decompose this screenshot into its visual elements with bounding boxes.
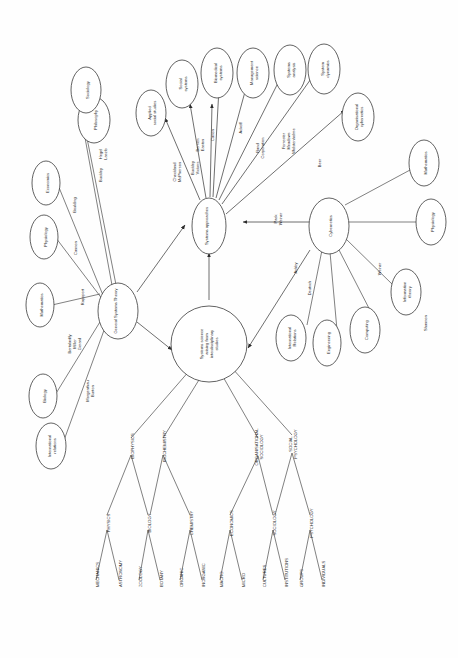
label-economics: Economics [45,173,50,193]
edgelabel-cannon: Cannon [73,241,78,255]
edgelabel-ashby: Ashby [293,262,298,273]
tree-leaf-cultures: CULTURES [262,565,267,587]
tree-leaf-individuals: INDIVIDUALS [321,560,326,587]
label-cybernetics: Cybernetics [328,215,333,237]
edgelabel-bertalanffy-miller-gerard: Bertalanffy Miller Gerard [67,334,82,353]
svg-text:Wolstenholme: Wolstenholme [291,128,296,154]
tree-leaf-groups: GROUPS [299,569,304,587]
svg-text:Mathematics: Mathematics [423,151,428,174]
svg-text:Easton: Easton [200,139,205,151]
svg-text:BIOPHYSICS: BIOPHYSICS [130,433,135,459]
svg-text:Corporation: Corporation [260,138,265,159]
tree-leaf-mechanics: MECHANICS [95,562,100,587]
label-international-relations-right: International Relations [287,327,297,350]
svg-text:Weiner: Weiner [278,212,283,225]
edgelabel-beer: Beer [317,158,322,167]
edgelabel-berrien-easton: Berrien Easton [195,139,205,152]
svg-text:MACRO: MACRO [219,571,224,587]
svg-text:INDIVIDUALS: INDIVIDUALS [321,560,326,587]
label-philosophy: Philosophy [93,109,98,130]
svg-text:social studies: social studies [152,101,157,126]
edgelabel-canon: Canon [210,129,215,141]
svg-text:Rapoport: Rapoport [80,288,85,305]
svg-text:systems: systems [183,76,188,91]
tree-node-economics: ECONOMICS [229,510,234,536]
edgelabel-buckley-vickers: Buckley Vickers [190,161,200,175]
svg-text:CHEMISTRY: CHEMISTRY [189,511,194,536]
svg-text:BIOCHEMISTRY: BIOCHEMISTRY [162,430,167,462]
label-mathematics-left: Mathematics [39,293,44,316]
label-physiology-right: Physiology [430,211,435,232]
svg-text:Engineering: Engineering [326,331,331,354]
edgelabel-checkland-mcpherson: Checkland McPherson [172,162,182,182]
edgelabel-buckley: Buckley [98,168,103,182]
label-systems-approaches: Systems approaches [204,207,209,245]
tree-node-biochemistry: BIOCHEMISTRY [162,430,167,462]
svg-text:cybernetics: cybernetics [359,107,364,128]
tree-node-sociology: SOCIOLOGY [272,510,277,535]
svg-text:Mathematics: Mathematics [39,293,44,316]
svg-text:Canon: Canon [210,129,215,141]
tree-leaf-macro: MACRO [219,571,224,587]
label-mathematics-right: Mathematics [423,151,428,174]
diagram-canvas: General Systems Theory Systems approache… [0,0,458,658]
svg-text:analysis: analysis [291,63,296,78]
edgelabel-boulding: Boulding [72,197,77,213]
svg-text:Ackoff: Ackoff [238,122,243,134]
label-computing: Computing [364,319,369,340]
node-systems-approaches[interactable] [192,198,226,254]
svg-text:Shannon: Shannon [423,315,428,331]
svg-text:Deutsch: Deutsch [307,281,312,296]
tree-node-biophysics: BIOPHYSICS [130,433,135,459]
label-general-systems-theory: General Systems Theory [113,287,118,333]
svg-text:dynamics: dynamics [325,60,330,77]
svg-text:McPherson: McPherson [177,162,182,182]
svg-text:CULTURES: CULTURES [262,565,267,587]
svg-text:Weiner: Weiner [377,262,382,275]
label-shannon: Shannon [423,315,428,331]
svg-text:Beer: Beer [317,158,322,167]
edgelabel-pask-weiner: Pask Weiner [273,212,283,225]
svg-text:Philosophy: Philosophy [93,109,98,130]
svg-text:Laszlo: Laszlo [103,147,108,159]
svg-text:Ashby: Ashby [293,262,298,273]
svg-text:science: science [254,65,259,80]
label-biology: Biology [42,388,47,402]
svg-text:ZOOLOGY: ZOOLOGY [138,566,143,587]
svg-text:Sociology: Sociology [85,80,90,99]
label-biomedical-systems: Biomedical systems [213,63,223,83]
svg-text:INORGANIC: INORGANIC [201,563,206,587]
tree-node-social-psychology: SOCIAL PSYCHOLOGY [288,429,298,459]
svg-text:Gerard: Gerard [77,338,82,350]
svg-text:SOCIOLOGY: SOCIOLOGY [272,510,277,535]
svg-text:GROUPS: GROUPS [299,569,304,587]
svg-text:PSYCHOLOGY: PSYCHOLOGY [309,508,314,538]
svg-text:Physiology: Physiology [430,211,435,232]
svg-text:Boulding: Boulding [72,197,77,213]
tree-edges [96,368,322,580]
edgelabel-rapoport: Rapoport [80,288,85,305]
svg-text:Physiology: Physiology [43,226,48,247]
tree-leaf-organic: ORGANIC [179,567,184,587]
label-systems-analysis: Systems analysis [286,62,296,78]
label-sociology: Sociology [85,80,90,99]
svg-text:BOTANY: BOTANY [159,570,164,587]
label-engineering: Engineering [326,331,331,354]
tree-node-biology: BIOLOGY [147,513,152,532]
tree-leaf-micro: MICRO [241,572,246,587]
svg-text:Systems approaches: Systems approaches [204,207,209,245]
svg-text:Vickers: Vickers [195,161,200,174]
tree-node-chemistry: CHEMISTRY [189,511,194,536]
node-general-systems-theory[interactable] [98,283,138,339]
tree-node-physics: PHYSICS [106,514,111,533]
svg-text:Economics: Economics [45,173,50,193]
tree-leaf-zoology: ZOOLOGY [138,566,143,587]
svg-text:General Systems Theory: General Systems Theory [113,287,118,333]
edgelabel-forrester-meadows-wolstenholme: Forrester Meadows Wolstenholme [281,128,296,154]
svg-text:relations: relations [52,438,57,453]
svg-text:INSTITUTIONS: INSTITUTIONS [284,558,289,587]
svg-text:studies: studies [214,338,219,351]
edgelabel-deutsch: Deutsch [307,281,312,296]
svg-text:MICRO: MICRO [241,572,246,587]
svg-text:Burton: Burton [90,385,95,397]
